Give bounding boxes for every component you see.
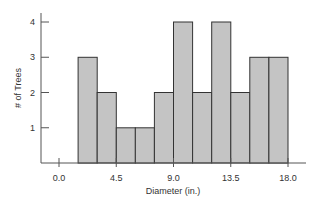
- y-tick-label: 3: [30, 52, 35, 62]
- x-tick-label: 13.5: [222, 173, 240, 183]
- histogram-bar: [78, 57, 97, 163]
- histogram-bar: [116, 128, 135, 163]
- x-axis-title: Diameter (in.): [146, 186, 201, 196]
- y-tick-label: 4: [30, 17, 35, 27]
- y-axis-title: # of Trees: [13, 67, 23, 108]
- plot-area: 1234 0.04.59.013.518.0 Diameter (in.) # …: [0, 0, 321, 207]
- histogram-bar: [250, 57, 269, 163]
- histogram-bar: [135, 128, 154, 163]
- y-tick-label: 1: [30, 123, 35, 133]
- x-tick-label: 18.0: [279, 173, 297, 183]
- x-tick-label: 4.5: [110, 173, 123, 183]
- y-tick-label: 2: [30, 88, 35, 98]
- histogram-chart: 1234 0.04.59.013.518.0 Diameter (in.) # …: [0, 0, 321, 207]
- histogram-bar: [174, 22, 193, 163]
- histogram-bar: [97, 93, 116, 164]
- histogram-bar: [231, 93, 250, 164]
- x-tick-label: 0.0: [53, 173, 66, 183]
- bars-group: [78, 22, 288, 163]
- histogram-bar: [269, 57, 288, 163]
- histogram-bar: [154, 93, 173, 164]
- x-tick-label: 9.0: [167, 173, 180, 183]
- histogram-bar: [212, 22, 231, 163]
- histogram-bar: [193, 93, 212, 164]
- y-ticks-group: 1234: [30, 17, 49, 133]
